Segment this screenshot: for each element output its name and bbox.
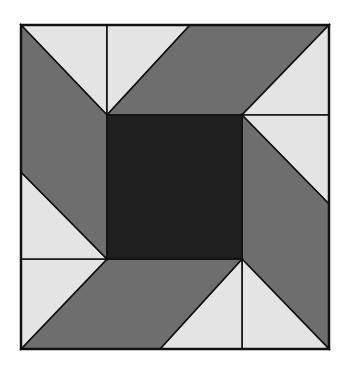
quilt-pieces: [21, 25, 329, 349]
center-dark-square: [107, 115, 242, 259]
quilt-block-diagram: [0, 0, 346, 369]
